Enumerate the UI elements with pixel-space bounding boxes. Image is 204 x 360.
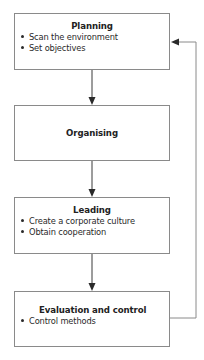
box-title-evaluation: Evaluation and control <box>15 305 169 316</box>
box-title-planning: Planning <box>15 21 169 32</box>
bullet-list-planning: Scan the environment Set objectives <box>15 32 169 54</box>
bullet-icon <box>21 35 24 38</box>
bullet-list-leading: Create a corporate culture Obtain cooper… <box>15 216 169 238</box>
bullet-item: Scan the environment <box>21 32 169 43</box>
arrowhead-left-icon <box>171 39 179 46</box>
arrowhead-down-icon <box>89 189 96 197</box>
bullet-text: Obtain cooperation <box>29 227 106 237</box>
box-leading: Leading Create a corporate culture Obtai… <box>14 197 170 254</box>
arrowhead-down-icon <box>89 283 96 291</box>
arrow-planning-to-organising <box>89 70 96 105</box>
bullet-item: Control methods <box>21 316 169 327</box>
box-planning: Planning Scan the environment Set object… <box>14 13 170 70</box>
bullet-icon <box>21 319 24 322</box>
bullet-text: Control methods <box>29 316 96 326</box>
box-title-organising: Organising <box>66 128 118 139</box>
box-title-leading: Leading <box>15 205 169 216</box>
arrow-organising-to-leading <box>89 161 96 197</box>
box-evaluation-and-control: Evaluation and control Control methods <box>14 291 170 347</box>
bullet-icon <box>21 230 24 233</box>
bullet-item: Set objectives <box>21 43 169 54</box>
arrow-leading-to-evaluation <box>89 254 96 291</box>
bullet-icon <box>21 46 24 49</box>
bullet-item: Obtain cooperation <box>21 227 169 238</box>
bullet-icon <box>21 219 24 222</box>
bullet-text: Scan the environment <box>29 32 118 42</box>
bullet-text: Set objectives <box>29 43 85 53</box>
bullet-list-evaluation: Control methods <box>15 316 169 327</box>
box-organising: Organising <box>14 105 170 161</box>
bullet-text: Create a corporate culture <box>29 216 135 226</box>
bullet-item: Create a corporate culture <box>21 216 169 227</box>
arrowhead-down-icon <box>89 97 96 105</box>
feedback-loop-evaluation-to-planning <box>170 39 196 319</box>
